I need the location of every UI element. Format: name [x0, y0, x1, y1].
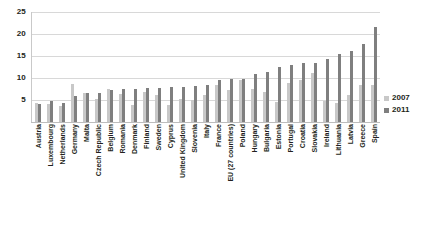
- x-axis-label-cell: Cyprus: [164, 124, 176, 202]
- bar-2011: [170, 87, 173, 122]
- x-axis-label-cell: Slovakia: [308, 124, 320, 202]
- x-axis-label: Germany: [71, 124, 78, 154]
- legend-label: 2007: [392, 94, 410, 102]
- bar-group: [296, 12, 308, 122]
- x-axis-label: France: [215, 124, 222, 147]
- bar-2011: [206, 85, 209, 122]
- bar-2011: [134, 89, 137, 122]
- x-axis-label-cell: Luxembourg: [44, 124, 56, 202]
- bar-group: [308, 12, 320, 122]
- bar-group: [332, 12, 344, 122]
- bar-group: [80, 12, 92, 122]
- x-axis-label-cell: Spain: [368, 124, 380, 202]
- x-axis-label: Croatia: [299, 124, 306, 148]
- y-tick-label: 15: [17, 52, 26, 60]
- bar-2011: [86, 93, 89, 122]
- x-axis-label: Slovakia: [311, 124, 318, 152]
- bar-group: [200, 12, 212, 122]
- bar-group: [92, 12, 104, 122]
- x-axis-label: Latvia: [347, 124, 354, 144]
- x-axis-label: Austria: [35, 124, 42, 148]
- y-tick-label: 10: [17, 74, 26, 82]
- bar-2011: [302, 63, 305, 122]
- x-axis-label-cell: Estonia: [272, 124, 284, 202]
- bar-2011: [326, 59, 329, 122]
- x-axis-label-cell: United Kingdom: [176, 124, 188, 202]
- bar-group: [68, 12, 80, 122]
- bar-2011: [158, 88, 161, 122]
- bar-2011: [182, 87, 185, 122]
- x-axis-label-cell: Poland: [236, 124, 248, 202]
- bar-group: [260, 12, 272, 122]
- y-tick-label: 25: [17, 8, 26, 16]
- bar-group: [356, 12, 368, 122]
- x-axis-label-cell: EU (27 countries): [224, 124, 236, 202]
- legend-entry: 2007: [384, 94, 426, 102]
- x-axis-baseline: [31, 122, 380, 123]
- x-axis-label: Ireland: [323, 124, 330, 147]
- bar-2011: [110, 90, 113, 122]
- x-axis-label-cell: Finland: [140, 124, 152, 202]
- bar-group: [56, 12, 68, 122]
- x-axis-category-labels: AustriaLuxembourgNetherlandsGermanyMalta…: [32, 124, 380, 202]
- legend-swatch: [384, 96, 389, 101]
- x-axis-label: Belgium: [107, 124, 114, 152]
- bar-group: [152, 12, 164, 122]
- x-axis-label-cell: Austria: [32, 124, 44, 202]
- x-axis-label: Portugal: [287, 124, 294, 152]
- bar-group: [128, 12, 140, 122]
- x-axis-label-cell: Denmark: [128, 124, 140, 202]
- bar-2011: [50, 101, 53, 122]
- x-axis-label-cell: Ireland: [320, 124, 332, 202]
- bar-group: [32, 12, 44, 122]
- bar-2011: [74, 96, 77, 122]
- x-axis-label: Poland: [239, 124, 246, 147]
- bar-2011: [266, 72, 269, 122]
- x-axis-label: Spain: [371, 124, 378, 143]
- x-axis-label: EU (27 countries): [227, 124, 234, 182]
- x-axis-label-cell: Sweden: [152, 124, 164, 202]
- x-axis-label-cell: Belgium: [104, 124, 116, 202]
- x-axis-label: Italy: [203, 124, 210, 138]
- bar-2011: [290, 65, 293, 122]
- bar-group: [236, 12, 248, 122]
- bar-2011: [194, 86, 197, 122]
- bar-group: [116, 12, 128, 122]
- bar-2011: [362, 44, 365, 122]
- legend-swatch: [384, 108, 389, 113]
- bar-group: [248, 12, 260, 122]
- x-axis-label-cell: Lithuania: [332, 124, 344, 202]
- x-axis-label-cell: Romania: [116, 124, 128, 202]
- legend-entry: 2011: [384, 106, 426, 114]
- bar-group: [140, 12, 152, 122]
- bar-group: [320, 12, 332, 122]
- x-axis-label: Hungary: [251, 124, 258, 152]
- x-axis-label: Romania: [119, 124, 126, 154]
- bar-group: [104, 12, 116, 122]
- x-axis-label: Lithuania: [335, 124, 342, 155]
- bar-chart: 510152025 AustriaLuxembourgNetherlandsGe…: [0, 0, 426, 225]
- x-axis-label-cell: Czech Republic: [92, 124, 104, 202]
- x-axis-label-cell: Latvia: [344, 124, 356, 202]
- x-axis-label-cell: France: [212, 124, 224, 202]
- x-axis-label-cell: Slovenia: [188, 124, 200, 202]
- bar-2011: [98, 93, 101, 122]
- plot-area: [32, 12, 380, 122]
- x-axis-label: Cyprus: [167, 124, 174, 148]
- x-axis-label: Sweden: [155, 124, 162, 150]
- bar-group: [224, 12, 236, 122]
- x-axis-label-cell: Bulgaria: [260, 124, 272, 202]
- x-axis-label-cell: Malta: [80, 124, 92, 202]
- bar-2011: [350, 51, 353, 122]
- x-axis-label-cell: Netherlands: [56, 124, 68, 202]
- y-tick-label: 5: [21, 96, 26, 104]
- bar-2011: [338, 54, 341, 122]
- bar-group: [344, 12, 356, 122]
- bar-2011: [146, 88, 149, 122]
- bar-2011: [230, 79, 233, 122]
- bar-group: [44, 12, 56, 122]
- bar-2011: [38, 104, 41, 122]
- bar-2011: [374, 27, 377, 122]
- x-axis-label-cell: Croatia: [296, 124, 308, 202]
- x-axis-label-cell: Hungary: [248, 124, 260, 202]
